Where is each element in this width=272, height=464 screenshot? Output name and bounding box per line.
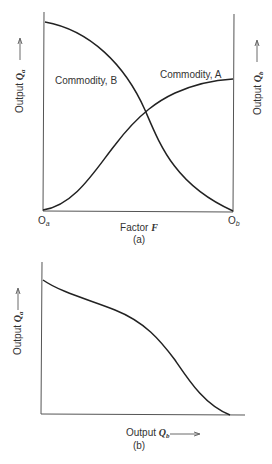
origin-b: Ob [228,215,240,227]
arrow-up-b-icon [16,288,20,310]
x-axis [41,414,245,415]
panel-b: Output Qa Output Qb (b) [12,262,245,451]
caption-a: (a) [133,234,145,245]
left-axis [43,12,44,211]
svg-text:Output Qb: Output Qb [252,71,265,115]
right-axis [233,14,234,212]
svg-text:Output Qa: Output Qa [14,69,27,113]
xlabel-b: Output Qb [126,427,170,440]
svg-text:Output Qa: Output Qa [12,311,25,355]
arrow-right-b-icon [170,432,200,436]
arrow-up-left-icon [18,38,22,60]
ylabel-right: Output Qb [252,71,265,115]
origin-a: Oa [38,215,50,227]
figure: Commodity, B Commodity, A Output Qa Outp… [0,0,272,464]
label-commodity-b: Commodity, B [55,75,117,86]
arrow-up-right-icon [255,40,259,62]
curve-output [43,280,230,415]
caption-b: (b) [133,440,145,451]
panel-a: Commodity, B Commodity, A Output Qa Outp… [14,12,265,245]
curve-commodity-b [45,22,233,211]
ylabel-b: Output Qa [12,311,25,355]
bottom-axis [43,211,233,212]
curve-commodity-a [43,79,233,210]
y-axis [41,262,42,414]
ylabel-left: Output Qa [14,69,27,113]
xlabel-factor-f: Factor F [120,222,158,233]
label-commodity-a: Commodity, A [160,69,222,80]
